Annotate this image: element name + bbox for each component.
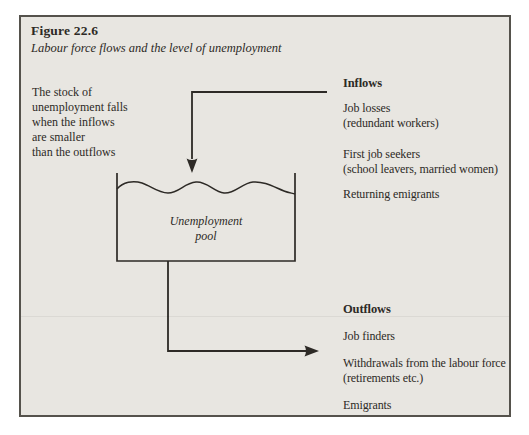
note-line: when the inflows [32, 115, 192, 130]
inflow-arrowhead [187, 159, 198, 174]
explanatory-note: The stock of unemployment falls when the… [32, 85, 192, 160]
item-line: (retirements etc.) [343, 371, 506, 386]
note-line: than the outflows [32, 145, 192, 160]
item-line: Emigrants [343, 398, 391, 413]
outflow-item-job-finders: Job finders [343, 329, 395, 344]
pool-label-line: Unemployment [126, 214, 286, 229]
figure-frame: Figure 22.6 Labour force flows and the l… [19, 15, 511, 417]
note-line: The stock of [32, 85, 192, 100]
scan-crease [21, 316, 509, 317]
item-line: Job losses [343, 101, 439, 116]
item-line: (redundant workers) [343, 116, 439, 131]
item-line: Withdrawals from the labour force [343, 356, 506, 371]
note-line: are smaller [32, 130, 192, 145]
inflow-arrow [187, 92, 327, 173]
figure-caption: Labour force flows and the level of unem… [31, 41, 282, 56]
item-line: First job seekers [343, 147, 498, 162]
inflows-heading: Inflows [343, 76, 382, 91]
outflow-item-withdrawals: Withdrawals from the labour force (retir… [343, 356, 506, 386]
outflow-arrowhead [305, 346, 320, 357]
item-line: (school leavers, married women) [343, 162, 498, 177]
outflows-heading: Outflows [343, 302, 391, 317]
note-line: unemployment falls [32, 100, 192, 115]
outflow-arrow [168, 261, 319, 356]
water-wave-icon [117, 182, 295, 194]
inflow-item-job-losses: Job losses (redundant workers) [343, 101, 439, 131]
figure-number: Figure 22.6 [31, 23, 98, 39]
inflow-item-returning-emigrants: Returning emigrants [343, 187, 439, 202]
item-line: Job finders [343, 329, 395, 344]
outflow-item-emigrants: Emigrants [343, 398, 391, 413]
pool-label-line: pool [126, 229, 286, 244]
inflow-item-first-job-seekers: First job seekers (school leavers, marri… [343, 147, 498, 177]
pool-label: Unemployment pool [126, 214, 286, 244]
item-line: Returning emigrants [343, 187, 439, 202]
